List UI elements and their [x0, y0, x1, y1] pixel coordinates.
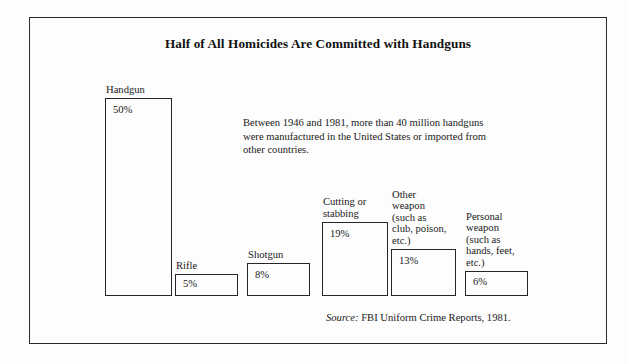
- bar-label-shotgun: Shotgun: [248, 249, 283, 260]
- bar-label-personal-weapon: Personal weapon (such as hands, feet, et…: [466, 211, 515, 268]
- bar-value-handgun: 50%: [113, 104, 132, 116]
- bar-value-cutting-or-stabbing: 19%: [330, 228, 349, 240]
- bar-value-rifle: 5%: [183, 278, 197, 290]
- bar-chart-plot-area: Handgun 50% Rifle 5% Shotgun 8%: [30, 18, 608, 345]
- chart-annotation-text: Between 1946 and 1981, more than 40 mill…: [243, 116, 491, 157]
- bar-label-rifle: Rifle: [176, 260, 197, 271]
- bar-shotgun: 8%: [247, 263, 310, 296]
- scanned-page: Half of All Homicides Are Committed with…: [0, 0, 629, 364]
- bar-label-cutting-or-stabbing: Cutting or stabbing: [323, 196, 366, 219]
- bar-personal-weapon: 6%: [465, 271, 528, 296]
- source-note: Source: FBI Uniform Crime Reports, 1981.: [326, 312, 511, 323]
- bar-group-personal-weapon: Personal weapon (such as hands, feet, et…: [465, 271, 528, 296]
- figure-frame: Half of All Homicides Are Committed with…: [29, 17, 607, 344]
- bar-cutting-or-stabbing: 19%: [322, 222, 388, 296]
- bar-label-other-weapon: Other weapon (such as club, poison, etc.…: [392, 189, 446, 246]
- bar-other-weapon: 13%: [391, 249, 456, 296]
- bar-handgun: 50%: [105, 98, 172, 296]
- bar-group-other-weapon: Other weapon (such as club, poison, etc.…: [391, 249, 456, 296]
- bar-group-rifle: Rifle 5%: [175, 274, 238, 296]
- bar-value-shotgun: 8%: [255, 269, 269, 281]
- bar-group-handgun: Handgun 50%: [105, 98, 172, 296]
- source-label: Source:: [326, 312, 359, 323]
- bar-value-personal-weapon: 6%: [473, 276, 487, 288]
- bar-group-cutting-or-stabbing: Cutting or stabbing 19%: [322, 222, 388, 296]
- bar-group-shotgun: Shotgun 8%: [247, 263, 310, 296]
- bar-value-other-weapon: 13%: [399, 255, 418, 267]
- bar-label-handgun: Handgun: [106, 84, 145, 95]
- source-value: FBI Uniform Crime Reports, 1981.: [359, 312, 511, 323]
- bar-rifle: 5%: [175, 274, 238, 296]
